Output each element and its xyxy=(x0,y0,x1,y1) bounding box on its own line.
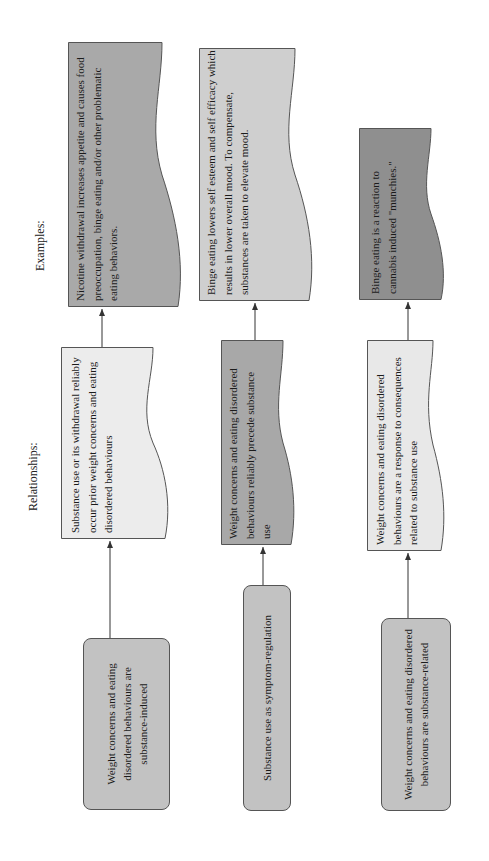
category-text: Substance use as symptom-regulation xyxy=(259,607,275,789)
relationship-box-1: Substance use or its withdrawal reliably… xyxy=(61,347,172,539)
example-box-2: Binge eating lowers self esteem and self… xyxy=(199,48,316,301)
category-box-substance-related: Weight concerns and eating disordered be… xyxy=(381,618,451,811)
relationship-box-3: Weight concerns and eating disordered be… xyxy=(367,340,447,551)
relationship-text: Weight concerns and eating disordered be… xyxy=(225,359,275,539)
relationship-text: Weight concerns and eating disordered be… xyxy=(372,345,422,545)
diagram-canvas: Relationships: Examples: Weight concerns… xyxy=(0,0,489,861)
category-box-symptom-regulation: Substance use as symptom-regulation xyxy=(243,585,291,811)
category-text: Weight concerns and eating disordered be… xyxy=(400,619,432,810)
example-text: Binge eating lowers self esteem and self… xyxy=(203,50,253,295)
example-box-1: Nicotine withdrawal increases appetite a… xyxy=(68,42,185,307)
examples-heading: Examples: xyxy=(33,220,48,271)
relationship-text: Substance use or its withdrawal reliably… xyxy=(67,351,117,533)
relationship-box-2: Weight concerns and eating disordered be… xyxy=(221,340,297,545)
category-box-substance-induced: Weight concerns and eating disordered be… xyxy=(83,638,170,810)
example-box-3: Binge eating is a reaction to cannabis i… xyxy=(359,128,447,300)
example-text: Nicotine withdrawal increases appetite a… xyxy=(72,51,122,301)
example-text: Binge eating is a reaction to cannabis i… xyxy=(367,134,400,294)
relationships-heading: Relationships: xyxy=(26,442,41,511)
category-text: Weight concerns and eating disordered be… xyxy=(103,639,151,809)
